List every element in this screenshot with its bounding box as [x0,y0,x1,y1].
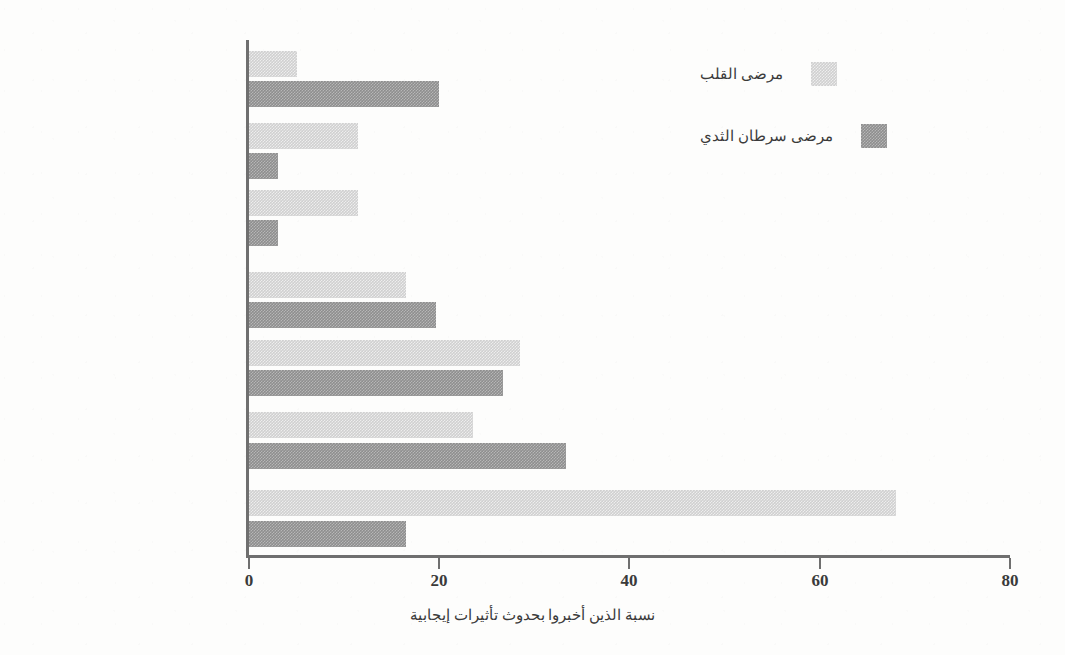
x-tick-label-20: 20 [431,571,448,591]
x-tick-label-40: 40 [621,571,638,591]
bar-cancer-5 [249,443,566,469]
bar-cancer-6 [249,521,406,547]
bar-heart-0 [249,51,297,77]
bar-cancer-2 [249,220,278,246]
bar-heart-6 [249,490,896,516]
x-tick-label-60: 60 [812,571,829,591]
x-tick-80 [1009,558,1011,569]
bar-heart-3 [249,272,406,298]
plot-area: 0 20 40 60 80 التحسـن في التعاطـف معرفة … [249,40,1010,555]
bar-cancer-1 [249,153,278,179]
x-tick-label-0: 0 [245,571,254,591]
x-tick-60 [819,558,821,569]
bar-heart-1 [249,123,358,149]
x-tick-40 [628,558,630,569]
chart-figure: مرضى القلب مرضى سرطان الثدي 0 20 40 60 8… [0,0,1065,655]
x-tick-20 [438,558,440,569]
bar-heart-5 [249,412,473,438]
bar-cancer-3 [249,302,436,328]
bar-heart-4 [249,340,520,366]
x-axis-title: نسبة الذين أخبروا بحدوث تأثيرات إيجابية [0,606,1065,624]
x-tick-label-80: 80 [1002,571,1019,591]
bar-cancer-4 [249,370,503,396]
bar-heart-2 [249,190,358,216]
x-tick-0 [248,558,250,569]
bar-cancer-0 [249,81,439,107]
